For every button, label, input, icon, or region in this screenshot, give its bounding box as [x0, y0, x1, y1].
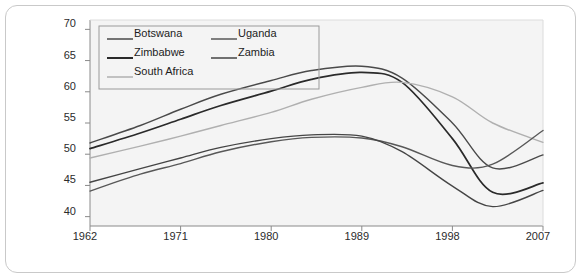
y-tick-label: 50	[50, 142, 76, 154]
legend-item-south-africa: South Africa	[134, 65, 193, 77]
legend-item-botswana: Botswana	[134, 27, 182, 39]
x-tick-label: 1998	[425, 230, 469, 242]
legend-item-zimbabwe: Zimbabwe	[134, 46, 185, 58]
legend-item-zambia: Zambia	[238, 46, 275, 58]
y-tick-label: 40	[50, 205, 76, 217]
y-tick-label: 70	[50, 17, 76, 29]
x-tick-label: 1989	[335, 230, 379, 242]
y-tick-label: 45	[50, 173, 76, 185]
y-tick-label: 65	[50, 49, 76, 61]
x-tick-label: 1980	[244, 230, 288, 242]
y-tick-label: 55	[50, 111, 76, 123]
x-tick-label: 1971	[154, 230, 198, 242]
y-tick-label: 60	[50, 80, 76, 92]
x-tick-label: 2007	[516, 230, 560, 242]
legend-item-uganda: Uganda	[238, 27, 277, 39]
x-tick-label: 1962	[63, 230, 107, 242]
chart-card: 40455055606570 196219711980198919982007 …	[5, 5, 576, 273]
